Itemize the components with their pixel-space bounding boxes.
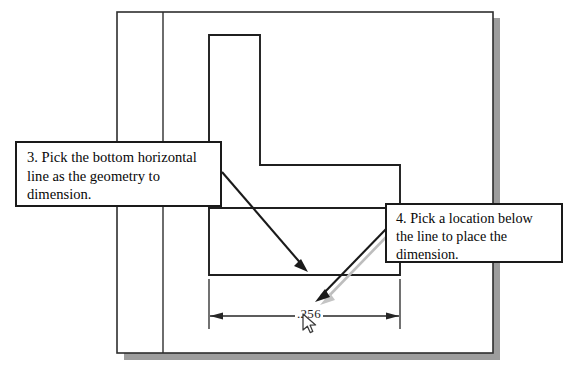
callout-step-3: 3. Pick the bottom horizontal line as th…	[15, 141, 222, 207]
callout-step-3-line-2: line as the geometry to	[27, 167, 212, 186]
callout-step-4-line-3: dimension.	[396, 245, 555, 263]
mouse-pointer-icon	[302, 313, 320, 337]
callout-step-3-line-1: 3. Pick the bottom horizontal	[27, 148, 212, 167]
callout-step-4: 4. Pick a location below the line to pla…	[385, 203, 563, 263]
callout-step-3-line-3: dimension.	[27, 185, 212, 204]
callout-step-4-line-1: 4. Pick a location below	[396, 209, 555, 227]
callout-step-4-line-2: the line to place the	[396, 227, 555, 245]
screenshot-canvas: .256 3. Pick the bottom horizontal line …	[0, 0, 575, 369]
